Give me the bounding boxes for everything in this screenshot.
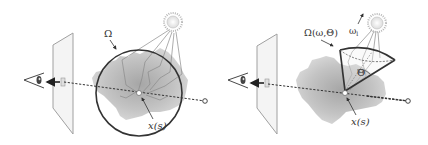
omega-sub: l xyxy=(356,30,358,37)
sample-point xyxy=(137,91,142,96)
cone-omega-label: Ω(ω,Θ) xyxy=(304,27,338,38)
point-label: x(s) xyxy=(351,116,370,127)
light-source-icon xyxy=(164,13,182,31)
eye-icon xyxy=(228,73,248,88)
diagram-canvas: Ω x(s) xyxy=(0,0,428,145)
point-label: x(s) xyxy=(148,120,167,131)
light-direction-arrow xyxy=(358,14,363,24)
cone-omega-pointer xyxy=(321,40,333,46)
left-panel: Ω x(s) xyxy=(24,13,207,136)
eye-icon xyxy=(24,73,44,88)
light-source-icon xyxy=(368,14,386,32)
omega-label: Ω xyxy=(104,28,112,39)
sample-point xyxy=(343,91,348,96)
right-panel: ωl Ω(ω,Θ) Θ x(s) xyxy=(228,14,410,134)
pixel xyxy=(265,79,269,87)
omega-pointer xyxy=(110,40,116,49)
light-direction-label: ωl xyxy=(349,26,358,37)
ray-origin xyxy=(203,99,208,104)
ray-origin xyxy=(406,99,411,104)
omega-main: ω xyxy=(349,26,356,36)
angle-label: Θ xyxy=(357,67,365,78)
